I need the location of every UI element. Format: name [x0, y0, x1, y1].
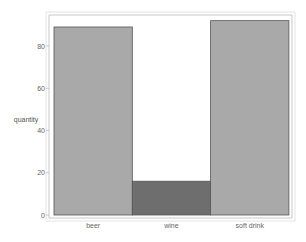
y-tick-label: 20 — [37, 169, 45, 176]
y-tick-label: 80 — [37, 43, 45, 50]
y-tick-label: 60 — [37, 85, 45, 92]
bar-chart: 020406080 beerwinesoft drink quantity — [0, 0, 306, 242]
bar-wine — [132, 181, 210, 215]
bar-soft-drink — [211, 21, 289, 215]
x-tick-label: soft drink — [236, 222, 265, 229]
y-tick-label: 40 — [37, 127, 45, 134]
x-tick-label: wine — [163, 222, 179, 229]
y-axis-label: quantity — [14, 116, 39, 124]
x-tick-label: beer — [86, 222, 101, 229]
y-tick-label: 0 — [41, 212, 45, 219]
bar-beer — [54, 27, 132, 215]
